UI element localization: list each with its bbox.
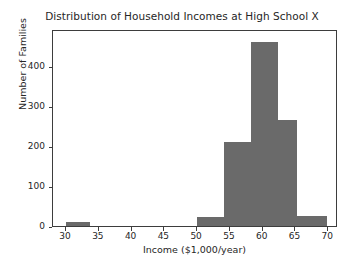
chart-figure: Distribution of Household Incomes at Hig… — [0, 0, 364, 265]
x-axis-label: Income ($1,000/year) — [52, 244, 337, 256]
y-tick-label: 0 — [5, 221, 45, 232]
histogram-bar — [251, 42, 278, 226]
x-tick-label: 65 — [279, 231, 309, 242]
x-tick-label: 70 — [312, 231, 342, 242]
histogram-bars — [53, 31, 336, 226]
x-tick-label: 45 — [148, 231, 178, 242]
y-tick-mark — [49, 107, 53, 108]
x-tick-mark — [327, 227, 328, 231]
x-tick-mark — [229, 227, 230, 231]
x-tick-mark — [131, 227, 132, 231]
x-tick-mark — [163, 227, 164, 231]
histogram-bar — [278, 120, 298, 226]
x-tick-label: 40 — [116, 231, 146, 242]
x-tick-label: 50 — [181, 231, 211, 242]
x-tick-mark — [98, 227, 99, 231]
y-tick-mark — [49, 187, 53, 188]
y-tick-mark — [49, 67, 53, 68]
y-tick-label: 200 — [5, 141, 45, 152]
x-tick-mark — [262, 227, 263, 231]
histogram-bar — [297, 216, 326, 226]
x-tick-mark — [294, 227, 295, 231]
histogram-bar — [66, 222, 90, 226]
x-tick-mark — [65, 227, 66, 231]
histogram-bar — [224, 142, 251, 226]
y-tick-mark — [49, 227, 53, 228]
x-tick-label: 55 — [214, 231, 244, 242]
x-tick-label: 60 — [247, 231, 277, 242]
x-tick-label: 35 — [83, 231, 113, 242]
y-tick-label: 100 — [5, 181, 45, 192]
x-tick-mark — [196, 227, 197, 231]
x-tick-label: 30 — [50, 231, 80, 242]
y-tick-mark — [49, 147, 53, 148]
chart-title: Distribution of Household Incomes at Hig… — [0, 10, 364, 23]
plot-area — [52, 30, 337, 227]
y-axis-label: Number of Families — [17, 0, 29, 134]
histogram-bar — [197, 217, 224, 226]
